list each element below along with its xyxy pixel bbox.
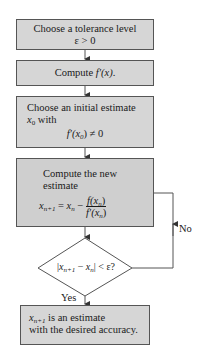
initial-line1: Choose an initial estimate — [27, 102, 153, 114]
step-initial-box: Choose an initial estimate x0 with f′(x0… — [16, 96, 154, 148]
iterate-line2: estimate — [43, 180, 153, 192]
yes-label: Yes — [61, 292, 76, 303]
tolerance-line1: Choose a tolerance level — [17, 23, 153, 35]
newton-fraction: f(xn) f′(xn) — [86, 195, 106, 218]
no-label: No — [179, 223, 192, 234]
step-tolerance-box: Choose a tolerance level ε > 0 — [16, 19, 154, 50]
result-line1: xn+1 is an estimate — [29, 312, 149, 324]
initial-line2: x0 with — [27, 114, 153, 126]
initial-condition: f′(x0) ≠ 0 — [17, 128, 153, 140]
result-line2: with the desired accuracy. — [29, 324, 149, 336]
step-result-box: xn+1 is an estimate with the desired acc… — [20, 305, 150, 345]
derivative-expr: f′(x) — [96, 67, 113, 78]
iterate-line1: Compute the new — [43, 168, 153, 180]
tolerance-line2: ε > 0 — [17, 35, 153, 47]
step-iterate-box: Compute the new estimate xn+1 = xn − f(x… — [16, 158, 154, 227]
decision-text: |xn+1 − xn| < ε? — [50, 261, 122, 272]
step-derivative-box: Compute f′(x). — [16, 60, 154, 86]
newton-formula: xn+1 = xn − f(xn) f′(xn) — [39, 195, 153, 218]
